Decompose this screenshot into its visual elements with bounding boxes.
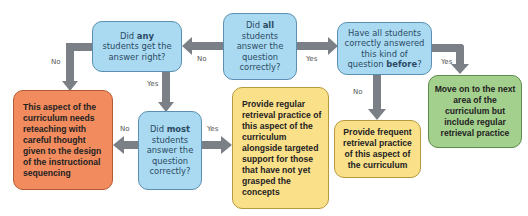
arrow-before-to-moveon — [451, 64, 469, 74]
outcome-move-on: Move on to the next area of the curricul… — [428, 75, 522, 148]
arrow-before-to-frequent — [368, 109, 386, 120]
question-did-most-students: Did most students answer the question co… — [138, 111, 202, 190]
edge-label-most-no: No — [120, 125, 130, 133]
question-did-any-students: Did any students get the answer right? — [92, 21, 182, 72]
outcome-reteach: This aspect of the curriculum needs rete… — [13, 90, 113, 190]
question-answered-before: Have all students correctly answered thi… — [337, 22, 432, 75]
edge-label-any-no: No — [51, 58, 61, 66]
arrow-most-to-regular — [221, 136, 232, 154]
edge-label-before-yes: Yes — [441, 58, 452, 66]
arrow-all-to-any — [182, 37, 192, 55]
edge-label-most-yes: Yes — [207, 125, 218, 133]
question-did-all-students: Did all students answer the question cor… — [223, 13, 297, 80]
edge-label-all-yes: Yes — [306, 55, 317, 63]
edge-label-any-yes: Yes — [147, 80, 158, 88]
outcome-frequent-retrieval: Provide frequent retrieval practice of t… — [334, 120, 421, 178]
arrow-most-to-reteach — [113, 136, 124, 154]
edge-label-before-no: No — [353, 88, 363, 96]
edge-label-all-no: No — [197, 55, 207, 63]
outcome-regular-retrieval-targeted: Provide regular retrieval practice of th… — [232, 87, 329, 209]
